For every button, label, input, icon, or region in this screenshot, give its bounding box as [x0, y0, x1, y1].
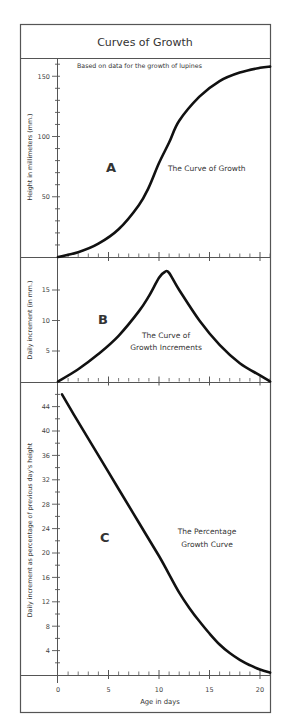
tick-label: 4: [46, 647, 50, 655]
panel-a-letter: A: [106, 160, 116, 175]
panel-c-annotation-line2: Growth Curve: [181, 540, 233, 549]
tick-label: 40: [42, 427, 50, 435]
tick-label: 32: [42, 476, 50, 484]
tick-label: 10: [42, 317, 50, 325]
tick-label: 12: [42, 598, 50, 606]
tick-label: 50: [42, 193, 50, 201]
panel-b-letter: B: [98, 312, 108, 327]
tick-label: 15: [42, 286, 50, 294]
panel-a-ylabel: Height in millimeters (mm.): [26, 113, 34, 200]
panel-b-annotation-line2: Growth Increments: [130, 343, 202, 352]
panel-b-annotation-line1: The Curve of: [141, 331, 190, 340]
tick-label: 8: [46, 623, 50, 631]
panel-c-annotation-line1: The Percentage: [177, 527, 237, 536]
tick-label: 5: [46, 347, 50, 355]
percentage-growth-curve: [62, 394, 270, 672]
growth-curve: [58, 67, 270, 257]
curves-of-growth-figure: Curves of Growth 05101520501001505101548…: [0, 0, 289, 728]
figure-title: Curves of Growth: [97, 36, 193, 49]
panel-b-ylabel: Daily increment (in mm.): [26, 281, 34, 360]
tick-label: 24: [42, 525, 50, 533]
tick-label: 20: [42, 549, 50, 557]
tick-label: 10: [155, 686, 163, 694]
tick-label: 44: [42, 403, 50, 411]
tick-label: 15: [205, 686, 213, 694]
tick-label: 150: [38, 73, 50, 81]
tick-label: 5: [106, 686, 110, 694]
tick-label: 0: [56, 686, 60, 694]
tick-label: 36: [42, 452, 50, 460]
tick-label: 16: [42, 574, 50, 582]
panel-c-letter: C: [100, 530, 110, 545]
panel-a-subtitle: Based on data for the growth of lupines: [77, 62, 202, 70]
x-axis-label: Age in days: [140, 698, 180, 706]
growth-increments-curve: [58, 271, 270, 382]
tick-label: 28: [42, 501, 50, 509]
panel-c-ylabel: Daily increment as percentage of previou…: [26, 442, 34, 617]
tick-label: 20: [256, 686, 264, 694]
panel-a-annotation: The Curve of Growth: [167, 164, 246, 173]
tick-label: 100: [38, 133, 50, 141]
